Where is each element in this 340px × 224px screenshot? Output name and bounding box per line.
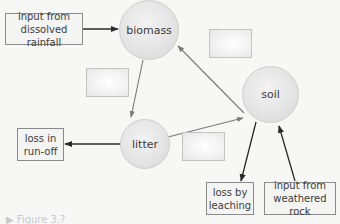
leaching-loss-box: loss by leaching [206, 182, 254, 215]
rainfall-input-box: input from dissolved rainfall [5, 13, 83, 45]
nutrient-cycle-diagram: input from dissolved rainfall biomass so… [0, 0, 340, 224]
rainfall-input-label: input from dissolved rainfall [8, 10, 80, 49]
leaching-loss-label: loss by leaching [209, 186, 251, 212]
arrow-biomass-to-litter [131, 60, 143, 117]
litter-label: litter [132, 138, 158, 151]
weathering-input-label: input from weathered rock [267, 179, 333, 218]
blank-answer-box-3[interactable] [182, 132, 225, 161]
runoff-loss-box: loss in run-off [17, 128, 64, 161]
blank-answer-box-1[interactable] [86, 68, 129, 97]
figure-caption: ▶ Figure 3.? [6, 214, 65, 224]
biomass-node: biomass [119, 0, 179, 60]
soil-label: soil [261, 88, 280, 101]
biomass-label: biomass [126, 24, 172, 37]
weathering-input-box: input from weathered rock [264, 182, 336, 215]
litter-node: litter [120, 119, 170, 169]
runoff-loss-label: loss in run-off [20, 132, 61, 158]
arrow-soil-to-leaching [241, 122, 256, 181]
soil-node: soil [242, 66, 299, 123]
blank-answer-box-2[interactable] [209, 29, 252, 58]
arrow-weathering-to-soil [279, 126, 295, 181]
